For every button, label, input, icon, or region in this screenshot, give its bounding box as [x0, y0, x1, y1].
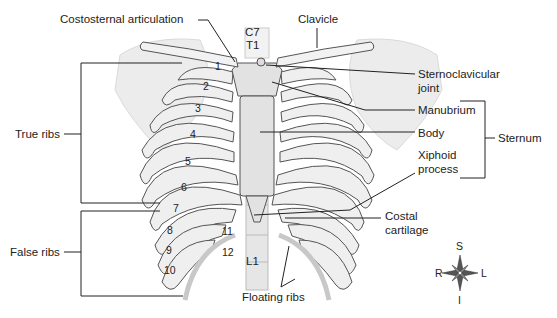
label-costal-line2: cartilage [385, 224, 428, 237]
label-sternum: Sternum [498, 132, 541, 145]
label-manubrium: Manubrium [418, 104, 476, 117]
label-c7: C7 [245, 26, 260, 39]
rib-number-8: 8 [167, 225, 173, 236]
label-true-ribs: True ribs [15, 128, 60, 141]
label-false-ribs: False ribs [10, 246, 60, 259]
label-t1: T1 [246, 39, 259, 52]
compass-superior: S [456, 241, 463, 252]
rib-number-5: 5 [185, 156, 191, 167]
compass-rose-icon [442, 255, 478, 291]
sternum-shape [232, 28, 282, 222]
rib-number-4: 4 [190, 129, 196, 140]
rib-number-2: 2 [203, 81, 209, 92]
label-clavicle: Clavicle [298, 13, 338, 26]
rib-cage-illustration [0, 0, 557, 318]
rib-number-1: 1 [215, 61, 221, 72]
label-body: Body [418, 127, 444, 140]
rib-number-12: 12 [222, 247, 234, 258]
label-xiphoid-line2: process [418, 163, 458, 176]
rib-number-9: 9 [166, 245, 172, 256]
label-costal-line1: Costal [385, 210, 418, 223]
label-costosternal-articulation: Costosternal articulation [60, 13, 183, 26]
rib-number-10: 10 [164, 265, 176, 276]
label-xiphoid-line1: Xiphoid [418, 149, 456, 162]
label-sternoclavicular-line2: joint [418, 82, 439, 95]
rib-number-6: 6 [181, 182, 187, 193]
compass-inferior: I [458, 295, 461, 306]
rib-number-11: 11 [222, 226, 233, 237]
rib-number-3: 3 [195, 103, 201, 114]
label-floating-ribs: Floating ribs [242, 291, 305, 304]
label-sternoclavicular-line1: Sternoclavicular [418, 68, 500, 81]
compass-left: L [481, 268, 487, 279]
rib-number-7: 7 [173, 203, 179, 214]
compass-right: R [435, 268, 443, 279]
label-l1: L1 [246, 255, 259, 268]
